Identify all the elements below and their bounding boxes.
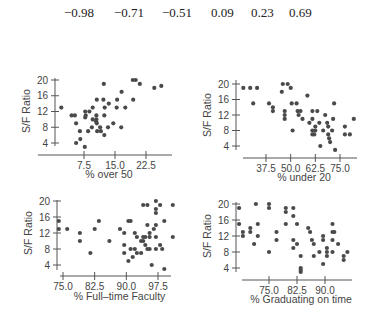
data-point bbox=[154, 211, 158, 215]
data-point bbox=[331, 117, 335, 121]
data-point bbox=[119, 125, 123, 129]
data-point bbox=[158, 243, 162, 247]
y-axis-title: S/F Ratio bbox=[201, 93, 213, 137]
data-point bbox=[123, 106, 127, 110]
y-tick-label: 12 bbox=[218, 231, 230, 242]
data-point bbox=[283, 113, 287, 117]
data-point bbox=[352, 117, 356, 121]
data-point bbox=[267, 206, 271, 210]
data-point bbox=[126, 259, 130, 263]
x-axis-title: % Full–time Faculty bbox=[74, 290, 166, 302]
data-point bbox=[295, 242, 299, 246]
data-point bbox=[291, 238, 295, 242]
data-point bbox=[237, 206, 241, 210]
data-point bbox=[299, 270, 303, 274]
data-point bbox=[289, 86, 293, 90]
y-tick-label: 16 bbox=[218, 94, 230, 105]
data-point bbox=[74, 141, 78, 145]
data-point bbox=[254, 202, 258, 206]
data-point bbox=[152, 227, 156, 231]
data-point bbox=[312, 242, 316, 246]
data-point bbox=[313, 125, 317, 129]
data-point bbox=[106, 125, 110, 129]
data-point bbox=[310, 117, 314, 121]
data-point bbox=[274, 230, 278, 234]
data-point bbox=[78, 129, 82, 133]
y-tick-label: 20 bbox=[218, 79, 230, 90]
data-point bbox=[86, 129, 90, 133]
data-point bbox=[148, 235, 152, 239]
data-point bbox=[135, 251, 139, 255]
data-point bbox=[78, 231, 82, 235]
data-point bbox=[129, 247, 133, 251]
data-point bbox=[94, 113, 98, 117]
data-point bbox=[133, 247, 137, 251]
data-point bbox=[330, 222, 334, 226]
data-point bbox=[90, 125, 94, 129]
data-point bbox=[326, 125, 330, 129]
data-point bbox=[148, 247, 152, 251]
data-point bbox=[284, 206, 288, 210]
data-point bbox=[133, 231, 137, 235]
data-point bbox=[267, 101, 271, 105]
data-point bbox=[84, 113, 88, 117]
data-point bbox=[295, 222, 299, 226]
data-point bbox=[102, 133, 106, 137]
data-point bbox=[95, 121, 99, 125]
data-point bbox=[241, 230, 245, 234]
data-point bbox=[120, 90, 124, 94]
data-point bbox=[323, 113, 327, 117]
data-point bbox=[73, 113, 77, 117]
data-point bbox=[248, 230, 252, 234]
data-point bbox=[283, 109, 287, 113]
data-point bbox=[280, 90, 284, 94]
data-point bbox=[141, 203, 145, 207]
y-tick-label: 12 bbox=[37, 106, 49, 117]
data-point bbox=[162, 267, 166, 271]
data-point bbox=[251, 101, 255, 105]
scatterplot-grid: 481216207.515.022.5% over 50S/F Ratio481… bbox=[0, 0, 374, 323]
data-point bbox=[252, 242, 256, 246]
data-point bbox=[93, 227, 97, 231]
y-axis-title: S/F Ratio bbox=[22, 211, 34, 255]
data-point bbox=[343, 132, 347, 136]
data-point bbox=[158, 203, 162, 207]
data-point bbox=[336, 242, 340, 246]
data-point bbox=[115, 98, 119, 102]
data-point bbox=[99, 129, 103, 133]
data-point bbox=[159, 84, 163, 88]
data-point bbox=[241, 234, 245, 238]
data-point bbox=[135, 235, 139, 239]
data-point bbox=[312, 254, 316, 258]
data-point bbox=[332, 101, 336, 105]
data-point bbox=[312, 132, 316, 136]
y-tick-label: 8 bbox=[223, 125, 229, 136]
data-point bbox=[122, 231, 126, 235]
data-point bbox=[330, 250, 334, 254]
data-point bbox=[256, 222, 260, 226]
data-point bbox=[284, 210, 288, 214]
data-point bbox=[321, 128, 325, 132]
data-point bbox=[328, 140, 332, 144]
data-point bbox=[65, 227, 69, 231]
data-point bbox=[271, 109, 275, 113]
data-point bbox=[91, 106, 95, 110]
y-tick-label: 12 bbox=[218, 110, 230, 121]
y-tick-label: 16 bbox=[39, 212, 51, 223]
y-axis-title: S/F Ratio bbox=[201, 214, 213, 258]
data-point bbox=[332, 230, 336, 234]
data-point bbox=[291, 206, 295, 210]
data-point bbox=[325, 121, 329, 125]
data-point bbox=[88, 251, 92, 255]
data-point bbox=[122, 251, 126, 255]
y-tick-label: 4 bbox=[44, 260, 50, 271]
data-point bbox=[317, 121, 321, 125]
data-point bbox=[74, 121, 78, 125]
data-point bbox=[315, 109, 319, 113]
data-point bbox=[345, 250, 349, 254]
data-point bbox=[256, 234, 260, 238]
data-point bbox=[295, 101, 299, 105]
data-point bbox=[115, 106, 119, 110]
data-point bbox=[313, 128, 317, 132]
x-axis-title: % Graduating on time bbox=[250, 293, 352, 305]
